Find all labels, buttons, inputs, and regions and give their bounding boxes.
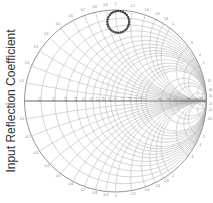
tick-label: 0.6: [68, 14, 73, 18]
tick-label: -0.4: [44, 164, 50, 168]
data-point: [108, 14, 110, 16]
data-point: [126, 27, 128, 29]
data-point: [128, 18, 130, 20]
tick-label: -20: [208, 108, 212, 112]
data-point: [127, 16, 129, 18]
tick-label: -10: [207, 117, 212, 121]
tick-label: -0.8: [92, 191, 98, 195]
tick-label: -0.1: [19, 117, 25, 121]
tick-label: 0.1: [38, 97, 42, 102]
tick-label: -1.8: [163, 179, 169, 183]
tick-label: 50: [209, 94, 212, 98]
data-point: [108, 27, 110, 29]
reactance-arc: [116, 101, 213, 203]
tick-label: 0.9: [103, 3, 108, 7]
smith-chart: 0.10.20.30.40.50.60.70.80.911.21.41.61.8…: [0, 0, 212, 203]
tick-label: -1.2: [130, 192, 136, 196]
data-series: [106, 10, 130, 34]
tick-label: 20: [195, 97, 199, 101]
tick-label: -3: [191, 155, 194, 159]
data-point: [126, 14, 128, 16]
tick-label: -1: [114, 194, 117, 198]
data-point: [112, 30, 114, 32]
tick-label: -0.5: [56, 174, 62, 178]
data-point: [122, 30, 124, 32]
tick-label: 1.6: [155, 12, 160, 16]
data-point: [119, 31, 121, 33]
data-point: [124, 29, 126, 31]
data-point: [107, 16, 109, 18]
tick-label: -0.2: [25, 135, 31, 139]
data-point: [128, 21, 130, 23]
tick-label: 1.4: [128, 97, 132, 102]
data-point: [115, 10, 117, 12]
tick-label: -0.7: [80, 188, 86, 192]
data-point: [128, 23, 130, 25]
data-point: [112, 11, 114, 13]
tick-label: -0.3: [33, 151, 39, 155]
tick-label: 4: [199, 53, 201, 57]
tick-label: 0.4: [74, 97, 78, 102]
tick-label: 0.8: [92, 5, 97, 9]
tick-label: 10: [207, 79, 211, 83]
data-point: [122, 11, 124, 13]
reactance-arc: [116, 0, 213, 101]
tick-label: 1.2: [131, 4, 136, 8]
tick-label: -1.4: [144, 188, 150, 192]
data-point: [106, 18, 108, 20]
tick-label: 0.5: [56, 22, 61, 26]
tick-label: 0.7: [96, 97, 100, 102]
tick-label: 20: [209, 88, 212, 92]
tick-label: -0.9: [103, 193, 109, 197]
tick-label: -4: [198, 143, 201, 147]
data-point: [117, 10, 119, 12]
tick-label: -2: [171, 174, 174, 178]
tick-label: 1.6: [134, 97, 138, 102]
tick-label: 1.8: [164, 17, 169, 21]
tick-label: 0.4: [44, 32, 49, 36]
tick-label: -1.6: [155, 184, 161, 188]
tick-label: -0.6: [68, 182, 74, 186]
tick-label: 5: [203, 61, 205, 65]
tick-label: 0.3: [34, 45, 39, 49]
tick-label: 0.2: [25, 61, 30, 65]
data-point: [110, 29, 112, 31]
data-point: [106, 23, 108, 25]
tick-label: 0.3: [64, 97, 68, 102]
tick-label: 1.2: [121, 97, 125, 102]
tick-label: 0.9: [108, 97, 112, 102]
tick-label: 3: [191, 41, 193, 45]
data-trace: [107, 11, 129, 33]
data-point: [127, 25, 129, 27]
tick-label: 0.6: [90, 97, 94, 102]
tick-label: 0.2: [52, 97, 56, 102]
tick-label: 1.4: [144, 8, 149, 12]
data-point: [124, 12, 126, 14]
tick-label: -5: [202, 135, 205, 139]
data-point: [110, 12, 112, 14]
reactance-arc: [142, 101, 213, 203]
data-point: [115, 31, 117, 33]
tick-label: 1: [115, 2, 117, 6]
tick-label: 0.5: [82, 97, 86, 102]
tick-label: 2: [172, 22, 174, 26]
tick-label: 0.7: [81, 8, 86, 12]
tick-label: -50: [209, 102, 212, 106]
tick-label: 10: [187, 97, 191, 101]
data-point: [106, 21, 108, 23]
data-point: [119, 10, 121, 12]
tick-label: 0.8: [102, 97, 106, 102]
tick-label: 0.1: [20, 79, 25, 83]
data-point: [107, 25, 109, 27]
tick-label: 1: [113, 98, 117, 100]
tick-label: 50: [200, 97, 204, 101]
data-point: [117, 32, 119, 34]
